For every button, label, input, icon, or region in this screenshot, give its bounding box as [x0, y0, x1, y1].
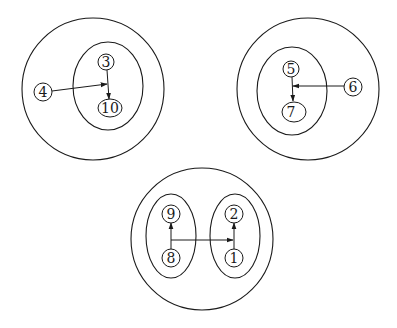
outer-circle-bottom: [131, 168, 273, 310]
node-2: 2: [225, 205, 243, 223]
svg-text:8: 8: [167, 250, 176, 266]
node-3: 3: [98, 54, 114, 70]
svg-text:1: 1: [230, 250, 239, 266]
node-6: 6: [344, 78, 362, 96]
node-8: 8: [162, 249, 180, 267]
node-1: 1: [225, 249, 243, 267]
svg-text:9: 9: [167, 206, 176, 222]
nested-graph-diagram: 3 10 4 5 7 6: [0, 0, 397, 328]
node-4: 4: [34, 83, 52, 101]
svg-text:6: 6: [349, 79, 358, 95]
node-7: 7: [282, 102, 306, 122]
svg-text:5: 5: [287, 61, 296, 77]
node-9: 9: [162, 205, 180, 223]
edge-3-to-10: [107, 70, 109, 99]
edge-4-to-edge: [52, 84, 107, 91]
edge-5-to-7: [292, 77, 293, 101]
svg-text:7: 7: [287, 104, 296, 120]
svg-text:10: 10: [101, 100, 119, 116]
group-top-left: 3 10 4: [22, 18, 164, 160]
group-top-right: 5 7 6: [237, 18, 379, 160]
node-10: 10: [98, 99, 122, 117]
svg-text:3: 3: [102, 54, 111, 70]
node-5: 5: [283, 61, 299, 77]
svg-text:4: 4: [39, 84, 48, 100]
svg-text:2: 2: [230, 206, 239, 222]
group-bottom: 9 8 2 1: [131, 168, 273, 310]
